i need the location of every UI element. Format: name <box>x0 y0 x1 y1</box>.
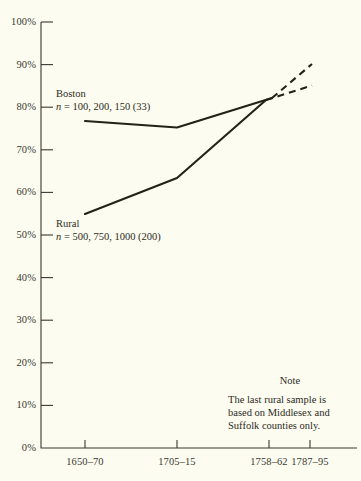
series-label-rural-n: n = 500, 750, 1000 (200) <box>56 231 161 244</box>
y-tick-label-30: 30% <box>0 314 36 325</box>
y-tick-label-70: 70% <box>0 144 36 155</box>
note-body: The last rural sample is based on Middle… <box>228 393 352 432</box>
y-tick-label-100: 100% <box>0 16 36 27</box>
y-tick-label-20: 20% <box>0 357 36 368</box>
series-label-boston-n-symbol: n <box>56 101 61 112</box>
y-tick-marks <box>41 22 53 405</box>
x-tick-label-1650-70: 1650–70 <box>45 456 125 467</box>
y-tick-label-0: 0% <box>0 442 36 453</box>
series-label-rural-n-symbol: n <box>56 231 61 242</box>
x-tick-label-1705-15: 1705–15 <box>137 456 217 467</box>
y-tick-label-80: 80% <box>0 101 36 112</box>
series-label-boston-name: Boston <box>56 88 150 101</box>
series-label-boston-n: n = 100, 200, 150 (33) <box>56 101 150 114</box>
series-label-rural: Rural n = 500, 750, 1000 (200) <box>56 218 161 243</box>
y-tick-label-90: 90% <box>0 59 36 70</box>
series-label-rural-name: Rural <box>56 218 161 231</box>
series-label-boston: Boston n = 100, 200, 150 (33) <box>56 88 150 113</box>
x-tick-label-1787-95: 1787–95 <box>270 456 350 467</box>
chart-figure: 100% 90% 80% 70% 60% 50% 40% 30% 20% 10%… <box>0 0 361 481</box>
y-tick-label-40: 40% <box>0 272 36 283</box>
series-line-rural-solid <box>85 100 266 214</box>
y-tick-label-60: 60% <box>0 186 36 197</box>
note-title: Note <box>228 374 352 387</box>
note-annotation: Note The last rural sample is based on M… <box>228 374 352 432</box>
y-tick-label-50: 50% <box>0 229 36 240</box>
y-tick-label-10: 10% <box>0 399 36 410</box>
series-label-rural-n-values: = 500, 750, 1000 (200) <box>64 231 161 242</box>
series-label-boston-n-values: = 100, 200, 150 (33) <box>64 101 150 112</box>
x-tick-marks <box>85 440 310 448</box>
